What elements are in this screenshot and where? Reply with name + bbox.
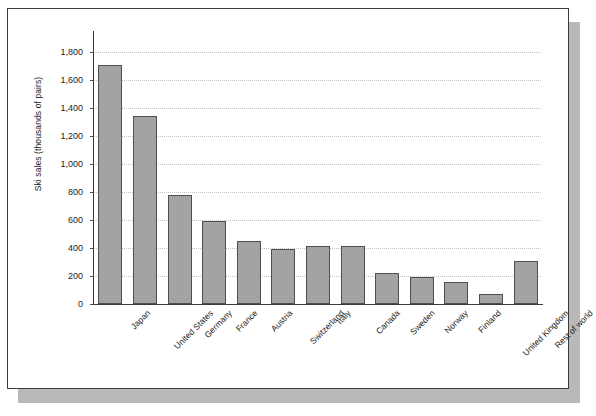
y-axis-tick-label: 1,200 — [41, 131, 83, 141]
y-axis-tick-label: 1,400 — [41, 103, 83, 113]
chart-plot-wrapper: Ski sales (thousands of pairs) 020040060… — [8, 9, 570, 390]
x-axis-tick-label: Japan — [129, 308, 152, 331]
bar — [133, 116, 157, 304]
x-axis-tick-label: Austria — [269, 308, 295, 334]
y-axis-tick-label: 800 — [41, 187, 83, 197]
bar — [341, 246, 365, 304]
screenshot-root: Ski sales (thousands of pairs) 020040060… — [0, 0, 596, 416]
x-axis-tick-label: Norway — [442, 308, 469, 335]
y-axis-tick-label: 600 — [41, 215, 83, 225]
bar — [444, 282, 468, 304]
x-axis-labels-layer: JapanUnited StatesGermanyFranceAustriaSw… — [93, 306, 543, 386]
y-axis-tick-label: 1,000 — [41, 159, 83, 169]
bar — [375, 273, 399, 305]
bar — [514, 261, 538, 304]
y-axis-tick-mark — [90, 304, 94, 305]
y-axis-tick-label: 0 — [41, 299, 83, 309]
y-axis-tick-label: 1,600 — [41, 75, 83, 85]
y-axis-tick-label: 1,800 — [41, 47, 83, 57]
bar — [237, 241, 261, 304]
bar — [410, 277, 434, 304]
bar — [479, 294, 503, 304]
x-axis-tick-label: Finland — [477, 308, 504, 335]
bar — [306, 246, 330, 304]
x-axis-tick-label: France — [234, 308, 260, 334]
chart-card: Ski sales (thousands of pairs) 020040060… — [7, 8, 569, 389]
bar — [98, 65, 122, 304]
x-axis-tick-label: Canada — [373, 308, 401, 336]
x-axis-tick-label: Sweden — [408, 308, 437, 337]
x-axis-line — [93, 304, 543, 305]
y-axis-tick-label: 200 — [41, 271, 83, 281]
bars-layer — [93, 45, 543, 304]
y-axis-tick-label: 400 — [41, 243, 83, 253]
bar — [271, 249, 295, 304]
bar — [168, 195, 192, 304]
bar — [202, 221, 226, 304]
